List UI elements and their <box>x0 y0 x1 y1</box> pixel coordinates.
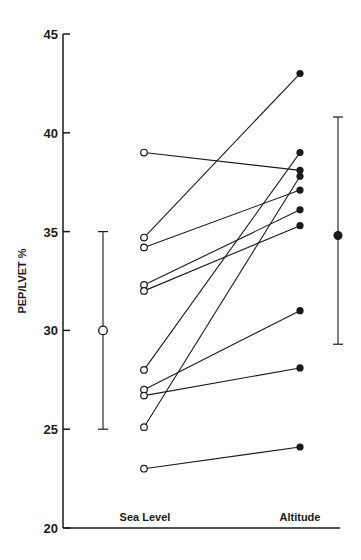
sea-level-point <box>141 465 148 472</box>
sea-level-point <box>141 424 148 431</box>
altitude-point <box>296 187 303 194</box>
subject-line <box>144 190 300 247</box>
mean-marker-filled <box>334 231 343 240</box>
y-axis-label: PEP/LVET % <box>16 248 28 313</box>
y-tick-label: 45 <box>44 27 58 42</box>
sea-level-point <box>141 149 148 156</box>
altitude-point <box>296 149 303 156</box>
y-tick-label: 40 <box>44 126 58 141</box>
axes <box>63 34 340 528</box>
subject-line <box>144 226 300 291</box>
subject-line <box>144 368 300 396</box>
subject-line <box>144 153 300 370</box>
sea-level-point <box>141 288 148 295</box>
subject-line <box>144 210 300 285</box>
paired-lines <box>141 70 304 472</box>
x-label-altitude: Altitude <box>280 511 321 523</box>
altitude-point <box>296 364 303 371</box>
altitude-point <box>296 173 303 180</box>
x-label-sea-level: Sea Level <box>120 511 171 523</box>
subject-line <box>144 311 300 390</box>
y-tick-label: 35 <box>44 225 58 240</box>
altitude-point <box>296 70 303 77</box>
altitude-point <box>296 307 303 314</box>
sea-level-point <box>141 244 148 251</box>
altitude-point <box>296 222 303 229</box>
sea-level-point <box>141 367 148 374</box>
y-tick-label: 25 <box>44 422 58 437</box>
sea-level-point <box>141 234 148 241</box>
altitude-point <box>296 206 303 213</box>
subject-line <box>144 176 300 427</box>
altitude-point <box>296 443 303 450</box>
subject-line <box>144 447 300 469</box>
paired-dot-plot: 202530354045 PEP/LVET % Sea Level Altitu… <box>0 0 361 560</box>
y-ticks: 202530354045 <box>44 27 70 536</box>
sea-level-point <box>141 392 148 399</box>
mean-marker-open <box>99 326 108 335</box>
chart-container: 202530354045 PEP/LVET % Sea Level Altitu… <box>0 0 361 560</box>
y-tick-label: 20 <box>44 521 58 536</box>
y-tick-label: 30 <box>44 323 58 338</box>
